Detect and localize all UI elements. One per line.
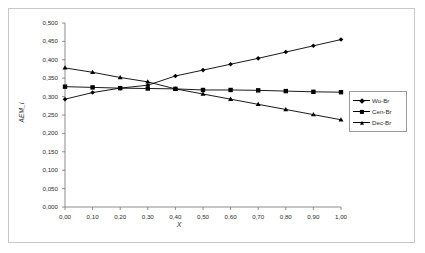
legend-item-dec-br: Dec-Br [352,117,404,128]
x-axis-title: X [9,221,349,228]
y-tick-label: 0,450 [26,37,58,44]
x-tick-label: 0,70 [243,213,273,220]
legend-label: Dec-Br [370,119,391,126]
legend-marker-diamond-icon [353,96,370,105]
y-tick-label: 0,400 [26,56,58,63]
x-tick-label: 0,40 [160,213,190,220]
chart-legend: Wo-Br Cen-Br Dec-Br [349,91,407,132]
figure-frame: AEM_i X 0,0000,0500,1000,1500,2000,2500,… [8,8,415,243]
legend-label: Cen-Br [370,108,392,115]
x-tick-label: 0,80 [271,213,301,220]
y-axis-title: AEM_i [18,83,25,143]
legend-marker-square-icon [353,107,370,116]
y-tick-label: 0,200 [26,129,58,136]
x-tick-label: 0,00 [50,213,80,220]
chart-plot-area: AEM_i X 0,0000,0500,1000,1500,2000,2500,… [9,9,416,244]
y-tick-label: 0,500 [26,19,58,26]
y-tick-label: 0,150 [26,148,58,155]
legend-item-wo-br: Wo-Br [352,95,404,106]
x-tick-label: 0,60 [216,213,246,220]
y-tick-label: 0,300 [26,93,58,100]
y-tick-label: 0,100 [26,166,58,173]
legend-item-cen-br: Cen-Br [352,106,404,117]
legend-label: Wo-Br [370,97,389,104]
legend-marker-triangle-icon [353,118,370,127]
y-tick-label: 0,250 [26,111,58,118]
x-tick-label: 0,10 [78,213,108,220]
y-tick-label: 0,350 [26,74,58,81]
x-tick-label: 0,50 [188,213,218,220]
y-tick-label: 0,050 [26,185,58,192]
x-tick-label: 1,00 [326,213,356,220]
x-tick-label: 0,90 [298,213,328,220]
series-dec-br [63,65,344,121]
x-tick-label: 0,20 [105,213,135,220]
y-tick-label: 0,000 [26,203,58,210]
x-tick-label: 0,30 [133,213,163,220]
